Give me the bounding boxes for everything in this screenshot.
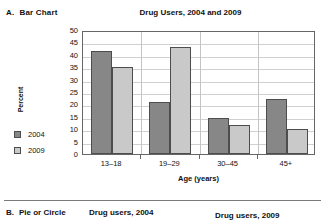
legend-label: 2009	[28, 146, 45, 155]
legend-label: 2004	[28, 130, 45, 139]
x-axis-label-30–45: 30–45	[203, 159, 253, 168]
bar-2009-30–45	[229, 125, 250, 154]
y-axis-tick-20: 20	[38, 101, 78, 109]
category-separator	[141, 32, 142, 154]
bar-2004-13–18	[91, 51, 112, 154]
x-axis-tickmark	[199, 155, 200, 159]
section-divider	[4, 200, 321, 201]
bar-2004-19–29	[149, 102, 170, 154]
section-b-title: Pie or Circle	[19, 208, 66, 217]
bar-2009-13–18	[112, 67, 133, 154]
y-axis-tick-35: 35	[38, 64, 78, 72]
category-separator	[258, 32, 259, 154]
category-separator	[200, 32, 201, 154]
x-axis-label-13–18: 13–18	[86, 159, 136, 168]
bar-2009-45+	[287, 129, 308, 154]
chart-title: Drug Users, 2004 and 2009	[0, 8, 325, 17]
pie-2004-title: Drug users, 2004	[89, 208, 153, 217]
y-axis-tick-50: 50	[38, 27, 78, 35]
pie-2009-title: Drug users, 2009	[215, 211, 279, 220]
x-axis-tickmark	[140, 155, 141, 159]
bar-2004-45+	[266, 99, 287, 154]
legend-swatch-2009	[14, 147, 21, 154]
bar-chart: Percent 50454035302520151050 13–1819–293…	[0, 22, 325, 192]
x-axis-label-19–29: 19–29	[144, 159, 194, 168]
y-axis-title: Percent	[17, 70, 24, 130]
y-axis-tick-15: 15	[38, 114, 78, 122]
section-b-label: B.Pie or Circle	[6, 208, 66, 217]
legend-item-2009: 2009	[14, 146, 74, 155]
section-b-letter: B.	[6, 208, 14, 217]
chart-legend: 20042009	[14, 130, 74, 162]
y-axis-tick-30: 30	[38, 77, 78, 85]
y-axis-tick-25: 25	[38, 89, 78, 97]
plot-area	[82, 31, 315, 155]
bar-2009-19–29	[170, 47, 191, 154]
gridline	[83, 44, 314, 45]
bar-2004-30–45	[208, 118, 229, 154]
y-axis-tick-40: 40	[38, 52, 78, 60]
y-axis-tick-45: 45	[38, 39, 78, 47]
legend-swatch-2004	[14, 131, 21, 138]
x-axis-title: Age (years)	[82, 174, 315, 183]
x-axis-tickmark	[257, 155, 258, 159]
gridline	[83, 57, 314, 58]
legend-item-2004: 2004	[14, 130, 74, 139]
x-axis-label-45+: 45+	[261, 159, 311, 168]
